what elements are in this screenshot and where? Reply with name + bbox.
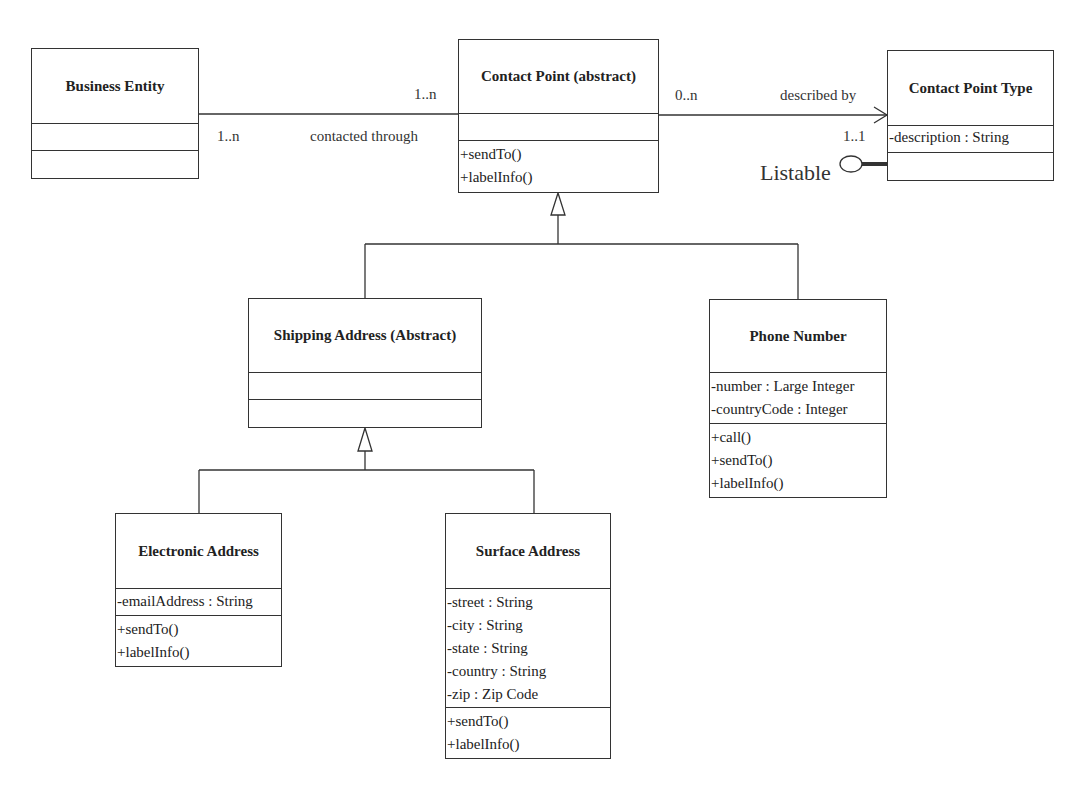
class-contact-point-type: Contact Point Type -description : String	[887, 50, 1054, 181]
attributes-compartment	[459, 114, 658, 141]
operations-compartment: +sendTo() +labelInfo()	[446, 708, 610, 756]
attributes-compartment	[32, 124, 198, 151]
association-label: described by	[780, 87, 856, 104]
class-shipping-address: Shipping Address (Abstract)	[248, 298, 482, 428]
operation: +sendTo()	[117, 618, 281, 641]
class-electronic-address: Electronic Address -emailAddress : Strin…	[115, 513, 282, 667]
class-name: Phone Number	[710, 300, 886, 373]
attribute: -description : String	[889, 126, 1053, 149]
operation: +call()	[711, 426, 886, 449]
operation: +sendTo()	[711, 449, 886, 472]
attribute: -countryCode : Integer	[711, 398, 886, 421]
generalization-triangle-icon	[551, 193, 565, 215]
operation: +sendTo()	[447, 710, 610, 733]
attributes-compartment	[249, 373, 481, 400]
operations-compartment	[249, 400, 481, 427]
class-surface-address: Surface Address -street : String -city :…	[445, 513, 611, 759]
class-name: Shipping Address (Abstract)	[249, 299, 481, 373]
multiplicity-label: 1..n	[414, 86, 437, 103]
multiplicity-label: 1..n	[217, 128, 240, 145]
attributes-compartment: -description : String	[888, 126, 1053, 153]
attribute: -zip : Zip Code	[447, 683, 610, 706]
attributes-compartment: -street : String -city : String -state :…	[446, 589, 610, 708]
class-name: Contact Point (abstract)	[459, 40, 658, 114]
operations-compartment: +sendTo() +labelInfo()	[116, 616, 281, 664]
operations-compartment	[888, 153, 1053, 180]
operations-compartment	[32, 151, 198, 178]
class-business-entity: Business Entity	[31, 48, 199, 179]
attributes-compartment: -emailAddress : String	[116, 589, 281, 616]
attribute: -street : String	[447, 591, 610, 614]
association-label: contacted through	[310, 128, 418, 145]
operation: +labelInfo()	[117, 641, 281, 664]
class-contact-point: Contact Point (abstract) +sendTo() +labe…	[458, 39, 659, 193]
generalization-triangle-icon	[358, 428, 372, 451]
class-phone-number: Phone Number -number : Large Integer -co…	[709, 299, 887, 498]
operations-compartment: +call() +sendTo() +labelInfo()	[710, 424, 886, 495]
attribute: -country : String	[447, 660, 610, 683]
multiplicity-label: 1..1	[843, 128, 866, 145]
attribute: -state : String	[447, 637, 610, 660]
class-name: Electronic Address	[116, 514, 281, 589]
operations-compartment: +sendTo() +labelInfo()	[459, 141, 658, 189]
attribute: -emailAddress : String	[117, 590, 281, 613]
operation: +labelInfo()	[711, 472, 886, 495]
operation: +labelInfo()	[447, 733, 610, 756]
interface-lollipop-icon	[840, 156, 862, 172]
operation: +sendTo()	[460, 143, 658, 166]
interface-name: Listable	[760, 160, 831, 186]
class-name: Business Entity	[32, 49, 198, 124]
uml-diagram: Business Entity Contact Point (abstract)…	[0, 0, 1088, 797]
attribute: -city : String	[447, 614, 610, 637]
class-name: Surface Address	[446, 514, 610, 589]
attributes-compartment: -number : Large Integer -countryCode : I…	[710, 373, 886, 424]
multiplicity-label: 0..n	[675, 87, 698, 104]
class-name: Contact Point Type	[888, 51, 1053, 126]
operation: +labelInfo()	[460, 166, 658, 189]
attribute: -number : Large Integer	[711, 375, 886, 398]
